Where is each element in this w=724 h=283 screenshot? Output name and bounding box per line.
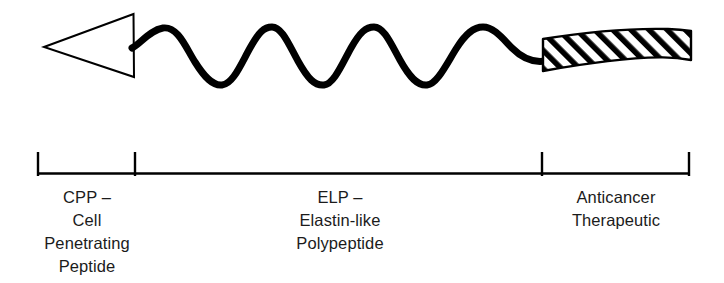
label-elp-line-2: Elastin-like	[248, 209, 432, 232]
label-cpp-line-3: Penetrating	[7, 232, 167, 255]
elastin-like-polypeptide-coil	[132, 27, 545, 85]
label-elp-line-1: ELP –	[248, 186, 432, 209]
label-anticancer-therapeutic: Anticancer Therapeutic	[536, 186, 696, 232]
label-cpp-line-4: Peptide	[7, 255, 167, 278]
label-elp-line-3: Polypeptide	[248, 232, 432, 255]
label-cpp-line-1: CPP –	[7, 186, 167, 209]
anticancer-therapeutic-ribbon	[535, 22, 701, 80]
label-cpp: CPP – Cell Penetrating Peptide	[7, 186, 167, 278]
figure-root: CPP – Cell Penetrating Peptide ELP – Ela…	[0, 0, 724, 283]
cell-penetrating-peptide-arrowhead	[44, 14, 134, 77]
label-elp: ELP – Elastin-like Polypeptide	[248, 186, 432, 255]
label-therapeutic-line-1: Anticancer	[536, 186, 696, 209]
label-cpp-line-2: Cell	[7, 209, 167, 232]
label-therapeutic-line-2: Therapeutic	[536, 209, 696, 232]
domain-scale-bar	[37, 152, 690, 176]
